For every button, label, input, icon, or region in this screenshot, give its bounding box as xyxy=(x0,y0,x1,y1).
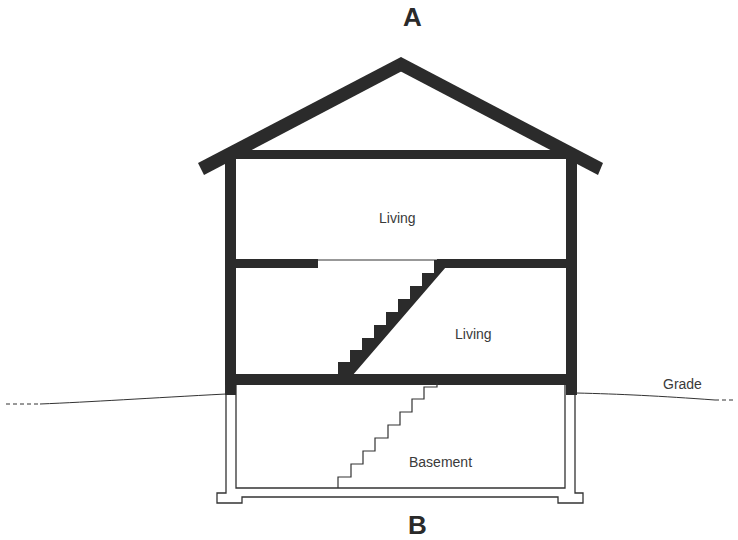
second-floor-left xyxy=(230,259,318,268)
second-floor-right xyxy=(437,259,572,268)
basement-staircase xyxy=(338,382,437,488)
grade-line-left xyxy=(40,394,226,404)
foundation-outline xyxy=(217,385,583,503)
grade-line-right xyxy=(576,393,715,400)
house-section-diagram xyxy=(0,0,738,540)
attic-floor xyxy=(226,150,576,159)
room-label-basement: Basement xyxy=(409,454,472,470)
section-label-a: A xyxy=(403,2,422,33)
right-wall xyxy=(566,150,577,395)
basement-inner-outline xyxy=(236,385,565,488)
foundation xyxy=(217,385,583,503)
room-label-lower-living: Living xyxy=(455,326,492,342)
right-sill xyxy=(566,385,576,395)
first-floor xyxy=(230,374,574,385)
left-wall xyxy=(225,150,236,395)
left-sill xyxy=(226,385,236,395)
upper-staircase xyxy=(338,260,452,376)
grade-label: Grade xyxy=(663,376,702,392)
room-label-upper-living: Living xyxy=(379,210,416,226)
section-label-b: B xyxy=(408,510,427,540)
